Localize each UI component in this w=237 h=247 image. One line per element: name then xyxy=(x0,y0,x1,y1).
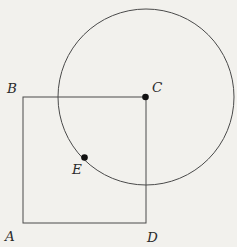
label-A: A xyxy=(3,228,15,244)
label-D: D xyxy=(146,229,158,245)
label-E: E xyxy=(71,161,82,177)
point-dot-C xyxy=(142,94,149,101)
point-dot-E xyxy=(81,154,88,161)
label-C: C xyxy=(152,79,163,95)
geometry-figure: B C E A D xyxy=(0,0,237,247)
figure-svg: B C E A D xyxy=(0,0,237,247)
label-B: B xyxy=(6,80,17,96)
